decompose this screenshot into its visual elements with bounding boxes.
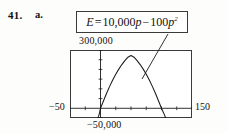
x-axis-max-label: 150 [195,101,210,112]
equation-lhs: E [86,15,93,29]
x-axis-min-label: −50 [49,101,65,112]
equation-text: E=10,000p−100p2 [86,16,177,29]
equation-exponent: 2 [174,15,178,23]
problem-number: 41. [8,9,22,21]
y-axis-min-label: −50,000 [87,119,122,130]
equation-quadratic-coefficient: 100 [150,15,168,29]
y-axis-max-label: 300,000 [79,35,113,46]
figure-container: 41. a. E=10,000p−100p2 300,000 [0,0,228,133]
equation-operator: − [141,15,150,29]
equation-callout-box: E=10,000p−100p2 [76,11,188,33]
plot-canvas [70,50,192,118]
problem-part-label: a. [35,9,43,20]
equation-linear-coefficient: 10,000 [102,15,135,29]
